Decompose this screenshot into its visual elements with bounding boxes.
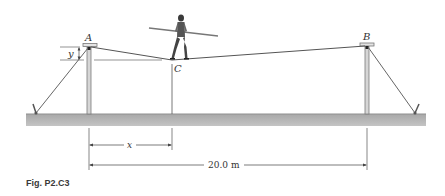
label-span: 20.0 m [208, 160, 240, 170]
guy-wire-a [36, 48, 88, 113]
label-y: y [67, 48, 74, 59]
figure-caption: Fig. P2.C3 [26, 178, 70, 188]
tightrope-diagram: A B C y x 20.0 m Fig. P2.C3 [0, 0, 445, 196]
label-b: B [362, 31, 370, 42]
label-c: C [174, 63, 182, 74]
anchor-a [33, 104, 38, 115]
tightrope-cable [91, 46, 365, 60]
pole-a [83, 44, 97, 115]
label-x: x [127, 140, 132, 150]
label-a: A [84, 32, 92, 43]
guy-wire-b [368, 47, 415, 113]
ground [26, 114, 426, 126]
anchor-b [413, 104, 419, 115]
pole-b [360, 43, 374, 114]
tightrope-walker [149, 15, 218, 60]
